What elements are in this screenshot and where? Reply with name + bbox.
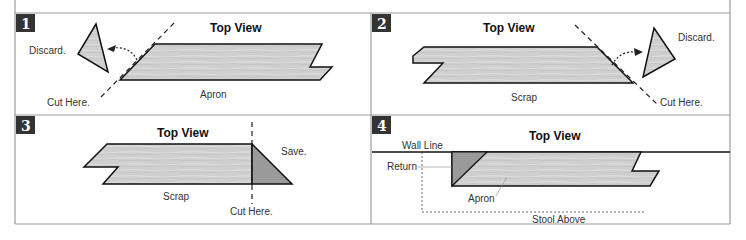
panel-title: Top View — [157, 126, 209, 140]
piece-label: Apron — [468, 193, 495, 204]
panel-title: Top View — [210, 21, 262, 35]
piece-label: Scrap — [511, 92, 538, 103]
arrow-curve — [612, 52, 638, 65]
apron-board — [452, 152, 659, 186]
cut-label: Cut Here. — [660, 97, 703, 108]
panel-1: 1 Top View Discard. Cut Here. Apron — [16, 14, 332, 108]
panel-4: 4 Top View Wall Line Return Apron Stool … — [372, 116, 730, 225]
discard-piece — [78, 24, 108, 72]
panel-title: Top View — [483, 21, 535, 35]
discard-piece — [643, 28, 675, 77]
return-label: Return — [387, 161, 417, 172]
step-number: 3 — [21, 118, 31, 134]
step-number: 2 — [377, 16, 387, 32]
frame — [15, 0, 730, 224]
stool-label: Stool Above — [532, 214, 586, 225]
wall-label: Wall Line — [402, 140, 443, 151]
arrow-head-icon — [107, 45, 116, 52]
cut-label: Cut Here. — [47, 97, 90, 108]
arrow-head-icon — [634, 48, 643, 56]
panel-2: 2 Top View Discard. Cut Here. Scrap — [372, 14, 715, 108]
piece-label: Apron — [200, 89, 227, 100]
panel-title: Top View — [529, 129, 581, 143]
piece-label: Scrap — [163, 191, 190, 202]
scrap-board — [413, 47, 633, 83]
discard-label: Discard. — [29, 45, 66, 56]
step-number: 1 — [21, 16, 31, 32]
apron-board — [120, 44, 332, 80]
cut-label: Cut Here. — [230, 206, 273, 217]
panel-3: 3 Top View Save. Cut Here. Scrap — [16, 116, 307, 217]
step-number: 4 — [377, 118, 387, 134]
scrap-board — [84, 144, 252, 184]
discard-label: Discard. — [678, 32, 715, 43]
diagram-canvas: 1 Top View Discard. Cut Here. Apron 2 To… — [0, 0, 746, 240]
arrow-curve — [113, 48, 137, 60]
save-label: Save. — [281, 146, 307, 157]
